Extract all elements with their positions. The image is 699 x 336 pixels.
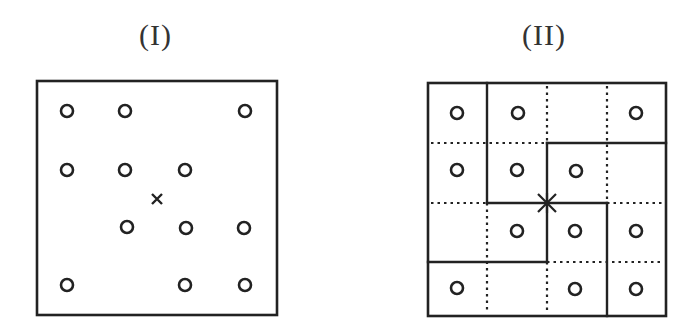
center-x-marker-icon xyxy=(152,194,162,204)
point-circle-icon xyxy=(630,107,642,119)
point-circle-icon xyxy=(512,107,524,119)
point-circle-icon xyxy=(451,164,463,176)
point-circle-icon xyxy=(119,164,131,176)
point-circle-icon xyxy=(630,283,642,295)
point-circle-icon xyxy=(451,107,463,119)
point-circle-icon xyxy=(239,279,251,291)
point-circle-icon xyxy=(570,165,582,177)
point-circle-icon xyxy=(511,225,523,237)
point-circle-icon xyxy=(179,279,191,291)
point-circle-icon xyxy=(569,283,581,295)
point-circle-icon xyxy=(61,279,73,291)
point-circle-icon xyxy=(630,225,642,237)
point-circle-icon xyxy=(61,105,73,117)
point-circle-icon xyxy=(239,105,251,117)
panel-II xyxy=(428,83,666,316)
point-circle-icon xyxy=(451,282,463,294)
point-circle-icon xyxy=(61,164,73,176)
point-circle-icon xyxy=(511,164,523,176)
point-circle-icon xyxy=(119,105,131,117)
point-circle-icon xyxy=(179,164,191,176)
point-circle-icon xyxy=(180,222,192,234)
point-circle-icon xyxy=(569,225,581,237)
panel-I xyxy=(37,81,277,315)
point-circle-icon xyxy=(121,221,133,233)
diagram-canvas xyxy=(0,0,699,336)
point-circle-icon xyxy=(238,222,250,234)
